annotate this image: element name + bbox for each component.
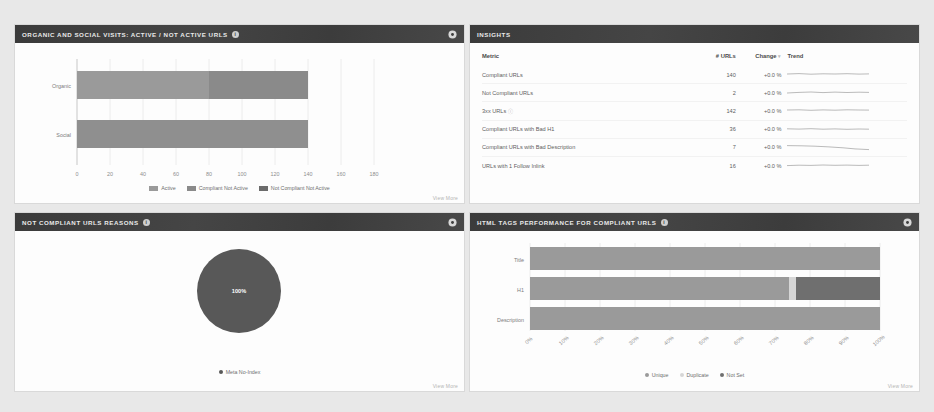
- cell-trend: [781, 156, 907, 174]
- panel-html-tags-performance: HTML Tags Performance for Compliant URLs…: [469, 212, 920, 392]
- legend-item[interactable]: Active: [149, 185, 175, 191]
- cell-metric: 3xx URLsⓘ: [482, 102, 696, 120]
- xtick: 100: [238, 171, 247, 177]
- panel-header: Not Compliant URLs Reasons i: [15, 213, 464, 231]
- bar-description-unique: [530, 307, 880, 330]
- xtick: 40%: [663, 335, 675, 347]
- legend-label: Unique: [652, 372, 669, 378]
- xtick: 80%: [803, 335, 815, 347]
- table-row[interactable]: Compliant URLs 140 +0.0 %: [482, 66, 907, 84]
- panel-title: Not Compliant URLs Reasons: [22, 219, 139, 226]
- column-header-trend[interactable]: Trend: [781, 53, 907, 66]
- panel-title: Insights: [477, 31, 511, 38]
- legend-item[interactable]: Unique: [645, 372, 669, 378]
- cell-change: +0.0 %: [736, 66, 782, 84]
- bar-h1-not-set: [796, 277, 880, 300]
- cell-urls: 36: [696, 120, 736, 138]
- info-icon[interactable]: i: [661, 219, 668, 226]
- xtick: 20%: [593, 335, 605, 347]
- dashboard-grid: Organic and Social Visits: Active / Not …: [14, 24, 920, 392]
- view-more-link[interactable]: View More: [433, 383, 458, 389]
- xtick: 40: [140, 171, 146, 177]
- chart-legend: Meta No-Index: [15, 369, 464, 375]
- table-row[interactable]: Compliant URLs with Bad H1 36 +0.0 %: [482, 120, 907, 138]
- xtick: 70%: [768, 335, 780, 347]
- cell-urls: 142: [696, 102, 736, 120]
- help-icon[interactable]: ⓘ: [508, 108, 513, 114]
- view-more-link[interactable]: View More: [888, 383, 913, 389]
- info-icon[interactable]: i: [143, 219, 150, 226]
- cell-metric: URLs with 1 Follow Inlink: [482, 156, 696, 174]
- gear-icon[interactable]: [448, 218, 457, 227]
- organic-social-bar-chart: Organic Social 0 20 40 60 80 100 120 140…: [15, 43, 465, 191]
- chart-legend: Active Compliant Not Active Not Complian…: [15, 185, 464, 191]
- cell-urls: 140: [696, 66, 736, 84]
- xtick: 30%: [628, 335, 640, 347]
- ytick-title: Title: [514, 257, 524, 263]
- insights-table: Metric # URLs Change▾ Trend Compliant UR…: [482, 53, 907, 174]
- sparkline-icon: [787, 88, 869, 97]
- legend-dot-icon: [219, 370, 223, 374]
- sparkline-icon: [787, 143, 869, 152]
- legend-item[interactable]: Duplicate: [680, 372, 709, 378]
- cell-urls: 2: [696, 84, 736, 102]
- table-row[interactable]: 3xx URLsⓘ 142 +0.0 %: [482, 102, 907, 120]
- cell-urls: 16: [696, 156, 736, 174]
- cell-metric: Compliant URLs with Bad Description: [482, 138, 696, 156]
- cell-metric: Not Compliant URLs: [482, 84, 696, 102]
- cell-urls: 7: [696, 138, 736, 156]
- not-compliant-pie-chart: 100%: [15, 231, 465, 353]
- legend-dot-icon: [645, 373, 649, 377]
- legend-item[interactable]: Not Set: [720, 372, 745, 378]
- chart-legend: Unique Duplicate Not Set: [470, 372, 919, 378]
- table-row[interactable]: Not Compliant URLs 2 +0.0 %: [482, 84, 907, 102]
- view-more-link[interactable]: View More: [433, 195, 458, 201]
- column-header-change[interactable]: Change▾: [736, 53, 782, 66]
- sparkline-icon: [787, 125, 869, 134]
- xtick: 100%: [872, 334, 887, 348]
- ytick-description: Description: [497, 317, 524, 323]
- gear-icon[interactable]: [448, 30, 457, 39]
- legend-label: Active: [161, 185, 175, 191]
- panel-not-compliant-reasons: Not Compliant URLs Reasons i 100% Meta N…: [14, 212, 465, 392]
- html-tags-bar-chart: Title H1 Description 0% 10% 20% 30% 40% …: [470, 231, 920, 359]
- column-header-urls[interactable]: # URLs: [696, 53, 736, 66]
- panel-header: Organic and Social Visits: Active / Not …: [15, 25, 464, 43]
- bar-organic-compliant-not-active: [209, 71, 308, 99]
- column-header-metric[interactable]: Metric: [482, 53, 696, 66]
- sort-icon[interactable]: ▾: [778, 53, 781, 59]
- bar-h1-duplicate: [789, 277, 796, 300]
- sparkline-icon: [787, 161, 869, 170]
- cell-change: +0.0 %: [736, 138, 782, 156]
- panel-insights: Insights Metric # URLs Change▾ Trend: [469, 24, 920, 204]
- cell-change: +0.0 %: [736, 102, 782, 120]
- ytick-social: Social: [56, 132, 71, 138]
- legend-item[interactable]: Meta No-Index: [219, 369, 261, 375]
- cell-trend: [781, 120, 907, 138]
- panel-header: Insights: [470, 25, 919, 43]
- table-row[interactable]: Compliant URLs with Bad Description 7 +0…: [482, 138, 907, 156]
- panel-organic-social-visits: Organic and Social Visits: Active / Not …: [14, 24, 465, 204]
- gear-icon[interactable]: [903, 218, 912, 227]
- table-row[interactable]: URLs with 1 Follow Inlink 16 +0.0 %: [482, 156, 907, 174]
- legend-label: Not Set: [727, 372, 745, 378]
- legend-item[interactable]: Not Compliant Not Active: [259, 185, 330, 191]
- ytick-organic: Organic: [52, 83, 71, 89]
- panel-header: HTML Tags Performance for Compliant URLs…: [470, 213, 919, 231]
- cell-change: +0.0 %: [736, 120, 782, 138]
- legend-swatch-icon: [259, 186, 268, 191]
- info-icon[interactable]: i: [232, 31, 239, 38]
- legend-item[interactable]: Compliant Not Active: [187, 185, 248, 191]
- legend-label: Meta No-Index: [226, 369, 261, 375]
- bar-social-active: [77, 120, 308, 148]
- cell-change: +0.0 %: [736, 156, 782, 174]
- cell-trend: [781, 102, 907, 120]
- panel-body: Title H1 Description 0% 10% 20% 30% 40% …: [470, 231, 919, 391]
- panel-body: 100% Meta No-Index View More: [15, 231, 464, 391]
- xtick: 80: [206, 171, 212, 177]
- xtick: 60%: [733, 335, 745, 347]
- xtick: 120: [271, 171, 280, 177]
- cell-trend: [781, 66, 907, 84]
- legend-label: Compliant Not Active: [199, 185, 248, 191]
- legend-label: Duplicate: [687, 372, 709, 378]
